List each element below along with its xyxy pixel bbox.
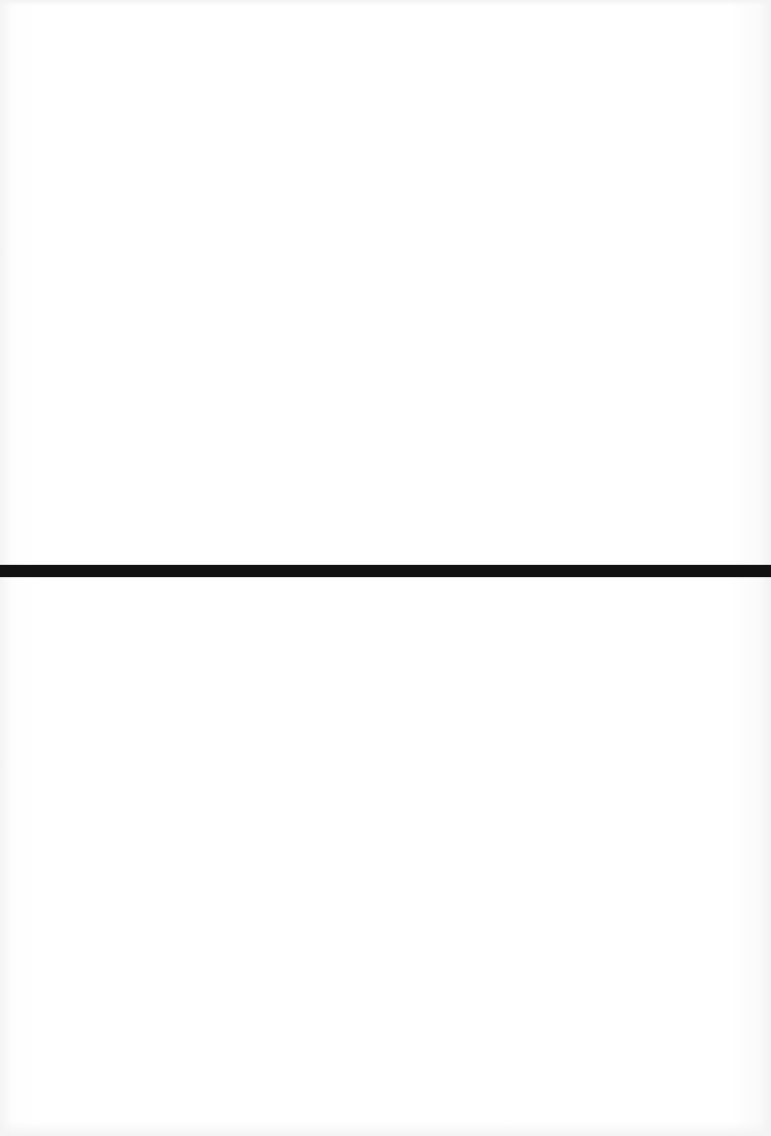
- bottom-edge-shading: [0, 1122, 771, 1136]
- top-edge-shading: [0, 0, 771, 6]
- horizontal-rule: [0, 565, 771, 577]
- blank-page: [0, 0, 771, 1136]
